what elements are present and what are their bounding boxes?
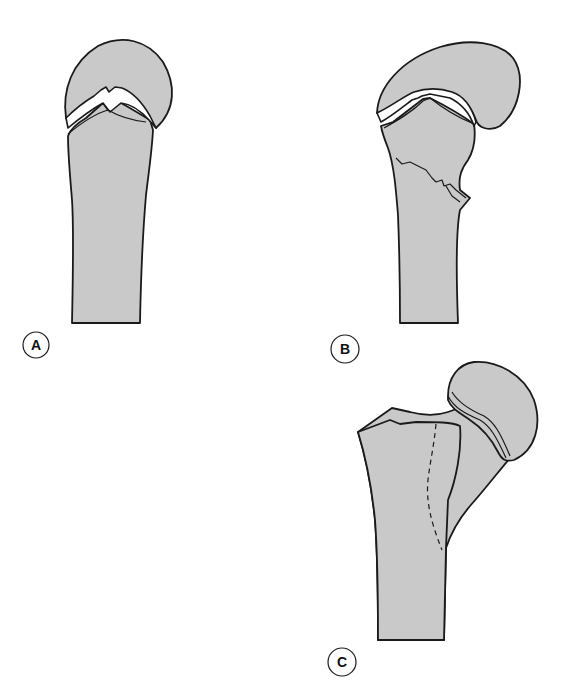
label-b: B: [331, 335, 359, 363]
panel-b-shaft: [381, 98, 475, 323]
label-c: C: [328, 648, 356, 676]
panel-c: [358, 362, 537, 640]
label-a: A: [23, 332, 49, 358]
panel-b: [377, 42, 520, 323]
svg-text:B: B: [340, 341, 350, 357]
panel-c-shaft: [358, 420, 460, 640]
svg-text:C: C: [337, 654, 347, 670]
fracture-diagram: A B C: [0, 0, 563, 698]
svg-text:A: A: [31, 337, 41, 353]
panel-a-shaft: [68, 103, 153, 323]
panel-a: [65, 40, 172, 323]
